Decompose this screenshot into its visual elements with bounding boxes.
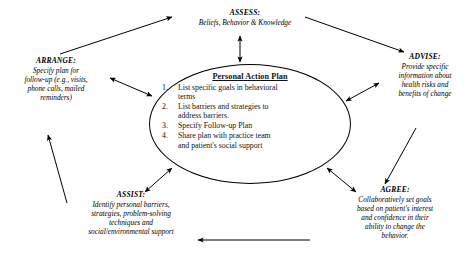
plan-item-line: terms — [178, 92, 340, 102]
plan-item: 4. Share plan with practice team and pat… — [160, 131, 340, 150]
spoke-arrange-plan — [110, 78, 152, 96]
node-assess: ASSESS: Beliefs, Behavior & Knowledge — [173, 8, 317, 27]
node-advise-description: Provide specific information about healt… — [380, 62, 470, 98]
node-advise-title: ADVISE: — [380, 52, 470, 61]
plan-heading: Personal Action Plan — [160, 72, 340, 81]
node-line: social/environmental support — [55, 227, 207, 236]
spoke-assist-plan — [145, 168, 172, 192]
node-line: ability to change the — [330, 222, 460, 231]
node-assess-title: ASSESS: — [173, 8, 317, 17]
node-line: based on patient's interest — [330, 204, 460, 213]
diagram-canvas: Personal Action Plan 1. List specific go… — [0, 0, 471, 268]
node-advise: ADVISE: Provide specific information abo… — [380, 52, 470, 98]
node-line: benefits of change — [380, 89, 470, 98]
plan-item-number: 1. — [160, 83, 178, 102]
plan-item-text: List barriers and strategies to address … — [178, 102, 340, 121]
plan-item-line: address barriers. — [178, 111, 340, 121]
node-line: behavior. — [330, 231, 460, 240]
node-line: Beliefs, Behavior & Knowledge — [173, 18, 317, 27]
node-line: techniques and — [55, 218, 207, 227]
node-line: phone calls, mailed — [4, 84, 108, 93]
node-agree-title: AGREE: — [330, 185, 460, 194]
node-line: reminders) — [4, 93, 108, 102]
plan-item-line: Share plan with practice team — [178, 131, 340, 141]
node-assist-title: ASSIST: — [55, 190, 207, 199]
plan-item: 2. List barriers and strategies to addre… — [160, 102, 340, 121]
node-arrange-description: Specify plan for follow-up (e.g., visits… — [4, 66, 108, 102]
node-agree: AGREE: Collaboratively set goals based o… — [330, 185, 460, 240]
node-assist: ASSIST: Identify personal barriers, stra… — [55, 190, 207, 236]
node-line: strategies, problem-solving — [55, 209, 207, 218]
node-line: Specify plan for — [4, 66, 108, 75]
node-assist-description: Identify personal barriers, strategies, … — [55, 200, 207, 236]
node-line: health risks and — [380, 80, 470, 89]
node-line: Provide specific — [380, 62, 470, 71]
arrow-arrange-to-assess — [60, 17, 172, 54]
plan-item-number: 3. — [160, 121, 178, 131]
plan-item-line: List specific goals in behavioral — [178, 83, 340, 93]
plan-item: 1. List specific goals in behavioral ter… — [160, 83, 340, 102]
arrow-assess-to-advise — [305, 17, 404, 52]
node-line: Identify personal barriers, — [55, 200, 207, 209]
plan-item-text: List specific goals in behavioral terms — [178, 83, 340, 102]
plan-item-text: Specify Follow-up Plan — [178, 121, 340, 131]
node-arrange-title: ARRANGE: — [4, 56, 108, 65]
plan-item-line: Specify Follow-up Plan — [178, 121, 340, 131]
personal-action-plan: Personal Action Plan 1. List specific go… — [160, 72, 340, 150]
plan-item-number: 2. — [160, 102, 178, 121]
plan-item: 3. Specify Follow-up Plan — [160, 121, 340, 131]
node-assess-description: Beliefs, Behavior & Knowledge — [173, 18, 317, 27]
arrow-advise-to-agree — [385, 128, 416, 184]
node-line: follow-up (e.g., visits, — [4, 75, 108, 84]
plan-item-text: Share plan with practice team and patien… — [178, 131, 340, 150]
node-line: Collaboratively set goals — [330, 195, 460, 204]
plan-item-number: 4. — [160, 131, 178, 150]
node-line: information about — [380, 71, 470, 80]
plan-item-line: and patient's social support — [178, 141, 340, 151]
node-arrange: ARRANGE: Specify plan for follow-up (e.g… — [4, 56, 108, 102]
node-agree-description: Collaboratively set goals based on patie… — [330, 195, 460, 240]
plan-item-line: List barriers and strategies to — [178, 102, 340, 112]
spoke-advise-plan — [346, 83, 379, 101]
node-line: and confidence in their — [330, 213, 460, 222]
